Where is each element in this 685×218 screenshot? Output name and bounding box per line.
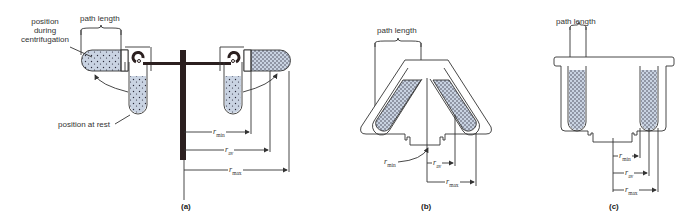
caption-c: (c): [609, 202, 619, 211]
caption-a: (a): [181, 202, 191, 211]
panel-c-vertical-tube-rotor: [554, 22, 674, 192]
caption-b: (b): [421, 202, 431, 211]
position-during-centrifugation-label: position during centrifugation: [20, 17, 70, 44]
r-av-label-b: rav: [432, 158, 442, 171]
r-min-label-c: rmin: [618, 151, 632, 164]
r-max-label-b: rmax: [445, 177, 460, 190]
position-at-rest-label: position at rest: [58, 120, 110, 129]
panel-a-swing-out-rotor: [70, 25, 291, 200]
centrifuge-rotor-diagram: [0, 0, 685, 218]
r-av-label-a: rav: [224, 145, 234, 158]
r-min-label-a: rmin: [212, 127, 226, 140]
r-min-label-b: rmin: [383, 157, 397, 170]
r-max-label-a: rmax: [228, 165, 243, 178]
r-max-label-c: rmax: [624, 185, 639, 198]
path-length-label-a: path length: [80, 14, 120, 23]
r-av-label-c: rav: [624, 168, 634, 181]
path-length-label-c: path length: [556, 17, 596, 26]
path-length-label-b: path length: [377, 26, 417, 35]
panel-b-fixed-angle-rotor: [361, 38, 492, 186]
